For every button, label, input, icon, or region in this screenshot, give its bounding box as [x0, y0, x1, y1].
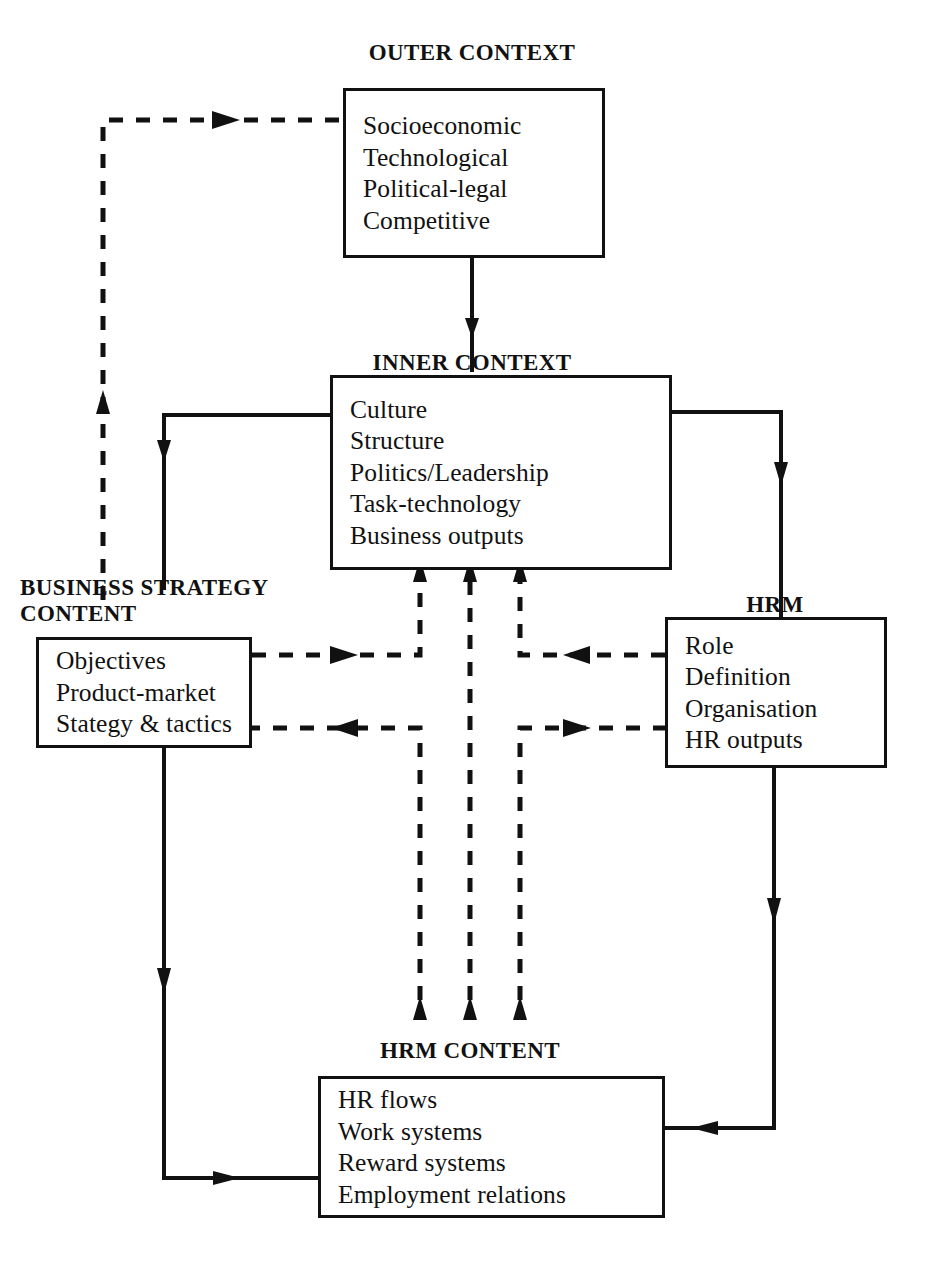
inner-context-item: Structure [350, 425, 669, 457]
outer-context-caption: OUTER CONTEXT [369, 40, 575, 66]
business-strategy-content-box: Objectives Product-market Stategy & tact… [36, 637, 252, 748]
hrm-context-content-diagram: OUTER CONTEXT Socioeconomic Technologica… [0, 0, 927, 1277]
hrm-context-item: HR outputs [685, 724, 884, 756]
business-strategy-content-caption: BUSINESS STRATEGY CONTENT [20, 575, 269, 627]
connector-inner-to-hrm-context [672, 412, 788, 617]
outer-context-item: Competitive [363, 205, 602, 237]
outer-context-item: Socioeconomic [363, 110, 602, 142]
hrm-content-box: HR flows Work systems Reward systems Emp… [318, 1076, 665, 1218]
hrm-content-item: Reward systems [338, 1147, 662, 1179]
hrm-context-box: Role Definition Organisation HR outputs [665, 617, 887, 768]
hrm-context-item: Organisation [685, 693, 884, 725]
outer-context-box: Socioeconomic Technological Political-le… [343, 88, 605, 258]
inner-context-item: Business outputs [350, 520, 669, 552]
hrm-content-caption: HRM CONTENT [380, 1038, 560, 1064]
inner-context-item: Culture [350, 394, 669, 426]
connector-hrm-content-to-inner [463, 558, 477, 1020]
connector-inner-to-business-strategy [157, 415, 330, 590]
connector-business-strategy-to-hrm-content [157, 748, 318, 1185]
inner-context-item: Task-technology [350, 488, 669, 520]
connector-hrm-context-to-hrm-content [665, 768, 781, 1135]
business-strategy-item: Objectives [56, 645, 249, 677]
hrm-content-item: HR flows [338, 1084, 662, 1116]
inner-context-box: Culture Structure Politics/Leadership Ta… [330, 375, 672, 570]
connector-hrm-context-to-inner [513, 558, 665, 664]
outer-context-item: Political-legal [363, 173, 602, 205]
inner-context-caption: INNER CONTEXT [373, 350, 572, 376]
hrm-context-item: Definition [685, 661, 884, 693]
hrm-content-item: Employment relations [338, 1179, 662, 1211]
hrm-context-item: Role [685, 630, 884, 662]
business-strategy-item: Stategy & tactics [56, 708, 249, 740]
hrm-content-item: Work systems [338, 1116, 662, 1148]
connector-hrm-content-to-business-strategy [252, 719, 427, 1020]
business-strategy-item: Product-market [56, 677, 249, 709]
inner-context-item: Politics/Leadership [350, 457, 669, 489]
connector-business-strategy-to-inner [252, 558, 427, 664]
outer-context-item: Technological [363, 142, 602, 174]
connector-hrm-content-to-hrm-context [513, 719, 665, 1020]
connector-feedback-to-outer-context [96, 111, 343, 600]
